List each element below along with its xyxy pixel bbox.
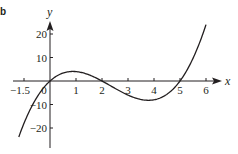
y-axis	[47, 21, 54, 148]
x-tick-label: −1.5	[10, 84, 30, 96]
y-axis-label: y	[46, 5, 53, 19]
x-tick-label: 1	[73, 84, 79, 96]
x-tick-label: 5	[177, 84, 183, 96]
x-tick-label: 6	[203, 84, 209, 96]
x-axis-label: x	[224, 74, 231, 88]
y-tick-label: −20	[30, 122, 48, 134]
y-tick-label: 20	[36, 28, 48, 40]
x-tick-label: 2	[99, 84, 105, 96]
x-tick-label: 4	[151, 84, 157, 96]
part-label: b	[0, 6, 6, 17]
function-graph: b x y −1.501234562010−10−20	[0, 0, 238, 154]
y-tick-label: 10	[36, 52, 48, 64]
